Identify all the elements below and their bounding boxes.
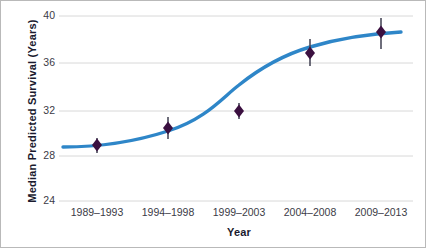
x-tick-label-2009-2013: 2009–2013 (344, 206, 418, 218)
x-tick-label-1989-1993: 1989–1993 (60, 206, 134, 218)
x-tick-label-1994-1998: 1994–1998 (131, 206, 205, 218)
y-axis-title: Median Predicted Survival (Years) (26, 18, 38, 204)
data-markers-group (92, 26, 386, 152)
chart-figure: 40 36 32 28 24 1989–1993 1994–1998 1999–… (0, 0, 426, 248)
data-point-5 (376, 26, 386, 39)
data-point-1 (92, 139, 102, 152)
x-axis-title: Year (56, 226, 422, 238)
x-tick-label-1999-2003: 1999–2003 (202, 206, 276, 218)
x-tick-label-2004-2008: 2004–2008 (273, 206, 347, 218)
trend-line (63, 32, 401, 147)
data-point-3 (234, 105, 244, 118)
